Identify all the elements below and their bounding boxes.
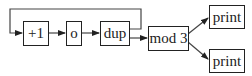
- node-compose: o: [66, 21, 82, 46]
- node-print-bottom: print: [209, 49, 245, 73]
- node-dup: dup: [100, 21, 130, 46]
- node-print-top: print: [209, 5, 245, 29]
- node-label: print: [213, 53, 241, 70]
- node-mod: mod 3: [148, 26, 189, 51]
- edge-mod-print1: [188, 18, 208, 34]
- node-label: mod 3: [150, 30, 188, 47]
- edge-mod-print2: [188, 42, 208, 59]
- node-label: dup: [104, 25, 127, 42]
- node-increment: +1: [23, 21, 49, 46]
- node-label: print: [213, 9, 241, 26]
- node-label: +1: [28, 25, 44, 42]
- node-label: o: [70, 25, 78, 42]
